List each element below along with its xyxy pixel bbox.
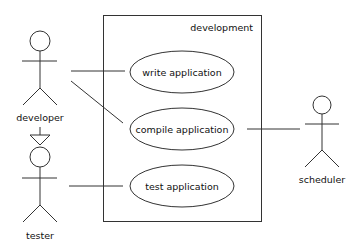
use-case-write-application[interactable]: write application [130,51,234,93]
association-developer-compile [71,81,123,123]
actor-developer[interactable]: developer [16,31,64,123]
use-case-label: test application [145,181,219,192]
system-label: development [190,22,253,33]
use-case-compile-application[interactable]: compile application [130,108,234,150]
actor-label: tester [26,230,54,241]
actor-label: developer [16,112,64,123]
use-case-label: compile application [136,124,229,135]
actor-scheduler[interactable]: scheduler [299,96,346,185]
actor-label: scheduler [299,174,346,185]
use-case-test-application[interactable]: test application [130,165,234,207]
generalization-arrow-icon [30,127,50,145]
actor-tester[interactable]: tester [22,147,57,241]
stick-figure-icon [22,147,57,222]
stick-figure-icon [305,96,339,167]
use-case-diagram: development write application compile ap… [0,0,358,248]
use-case-label: write application [142,67,221,78]
stick-figure-icon [22,31,57,105]
